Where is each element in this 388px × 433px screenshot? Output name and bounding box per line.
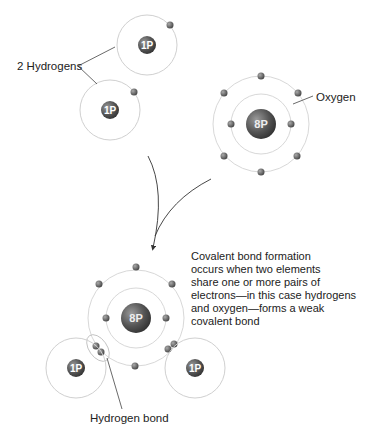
svg-text:1P: 1P — [141, 40, 154, 51]
svg-text:8P: 8P — [254, 118, 267, 130]
bonded-hydrogen-right: 1P — [165, 338, 225, 398]
covalent-bond-caption: Covalent bond formation occurs when two … — [191, 250, 356, 328]
svg-text:1P: 1P — [70, 363, 83, 374]
oxygen-leader-line — [293, 96, 313, 104]
oxygen-label: Oxygen — [316, 90, 356, 104]
oxygen-atom: 8P — [213, 73, 309, 176]
reaction-arrows — [148, 156, 211, 248]
hydrogen-atom-second: 1P — [80, 80, 140, 140]
svg-text:1P: 1P — [189, 363, 202, 374]
svg-text:1P: 1P — [104, 105, 117, 116]
hydrogen-atom-top: 1P — [117, 15, 177, 75]
hydrogen-bond-leader-line — [107, 358, 122, 409]
hydrogens-label: 2 Hydrogens — [17, 59, 82, 73]
svg-text:8P: 8P — [129, 312, 142, 324]
hydrogen-bond-label: Hydrogen bond — [90, 411, 169, 425]
bonded-hydrogen-left: 1P — [46, 338, 106, 398]
hydrogens-leader-lines — [78, 47, 115, 84]
